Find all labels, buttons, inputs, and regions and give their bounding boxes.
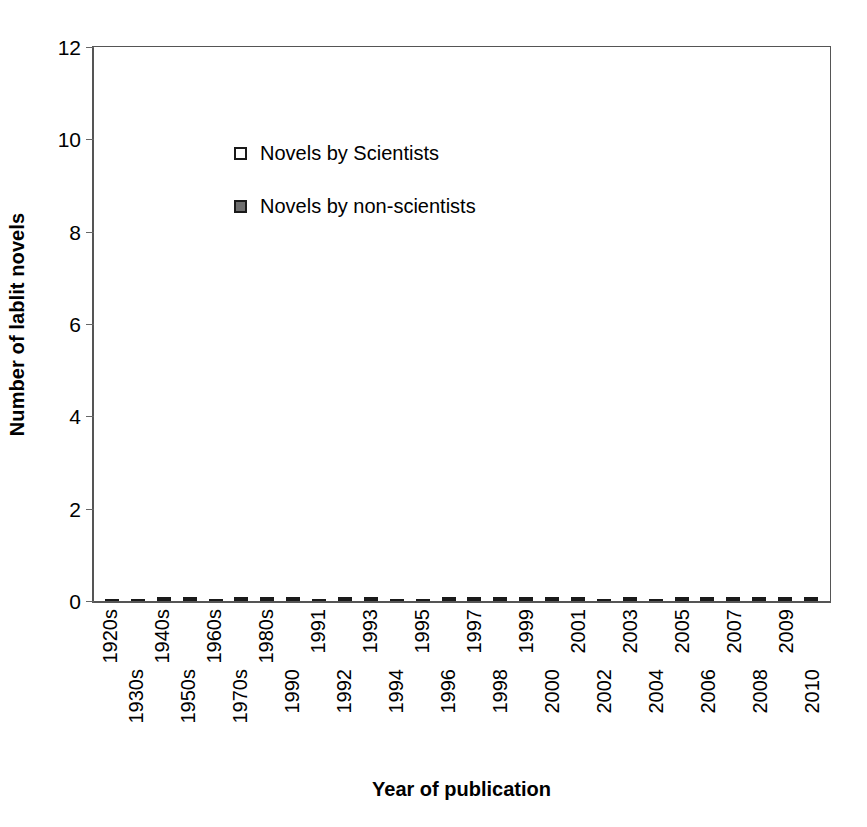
bar-slot xyxy=(332,47,358,601)
x-tick-slot: 1998 xyxy=(487,605,513,755)
x-tick-label: 2001 xyxy=(568,609,588,654)
stacked-bar[interactable] xyxy=(234,597,248,601)
x-tick-slot: 1990 xyxy=(279,605,305,755)
stacked-bar[interactable] xyxy=(390,599,404,601)
x-tick-slot: 2002 xyxy=(591,605,617,755)
x-tick-label: 1991 xyxy=(308,609,328,654)
x-tick-slot: 2001 xyxy=(565,605,591,755)
x-axis-title: Year of publication xyxy=(92,778,831,801)
legend-swatch-icon xyxy=(234,200,247,213)
x-tick-slot: 1993 xyxy=(357,605,383,755)
stacked-bar[interactable] xyxy=(675,597,689,601)
stacked-bar[interactable] xyxy=(519,597,533,601)
x-tick-label: 1980s xyxy=(256,609,276,664)
legend-item[interactable]: Novels by non-scientists xyxy=(234,195,476,218)
bar-slot xyxy=(746,47,772,601)
x-tick-slot: 2004 xyxy=(643,605,669,755)
x-tick-slot: 1940s xyxy=(149,605,175,755)
bar-segment-non-scientists xyxy=(726,599,740,601)
bar-segment-non-scientists xyxy=(778,599,792,601)
plot-area: 024681012 Novels by ScientistsNovels by … xyxy=(92,46,831,603)
x-tick-slot: 1980s xyxy=(253,605,279,755)
x-tick-slot: 1960s xyxy=(201,605,227,755)
stacked-bar[interactable] xyxy=(416,599,430,601)
x-tick-slot: 1995 xyxy=(409,605,435,755)
bar-slot xyxy=(565,47,591,601)
x-tick-label: 1940s xyxy=(152,609,172,664)
bar-series-container xyxy=(94,47,830,601)
x-tick-label: 1995 xyxy=(412,609,432,654)
stacked-bar[interactable] xyxy=(105,599,119,601)
y-tick-mark xyxy=(86,416,94,417)
x-axis-ticks: 1920s1930s1940s1950s1960s1970s1980s19901… xyxy=(92,605,831,755)
x-tick-label: 1998 xyxy=(490,669,510,714)
bar-slot xyxy=(410,47,436,601)
bar-slot xyxy=(591,47,617,601)
legend-item[interactable]: Novels by Scientists xyxy=(234,142,476,165)
x-tick-label: 1920s xyxy=(100,609,120,664)
stacked-bar[interactable] xyxy=(726,597,740,601)
bar-segment-non-scientists xyxy=(467,599,481,601)
x-tick-slot: 2005 xyxy=(669,605,695,755)
x-tick-label: 1990 xyxy=(282,669,302,714)
bar-slot xyxy=(358,47,384,601)
bar-slot xyxy=(228,47,254,601)
x-tick-label: 1996 xyxy=(438,669,458,714)
bar-segment-non-scientists xyxy=(234,599,248,601)
y-axis-title: Number of lablit novels xyxy=(0,46,34,603)
stacked-bar[interactable] xyxy=(364,597,378,601)
stacked-bar[interactable] xyxy=(467,597,481,601)
stacked-bar[interactable] xyxy=(700,597,714,601)
x-tick-slot: 2009 xyxy=(773,605,799,755)
y-tick-mark xyxy=(86,47,94,48)
x-tick-slot: 2007 xyxy=(721,605,747,755)
stacked-bar[interactable] xyxy=(338,597,352,601)
x-tick-label: 2008 xyxy=(750,669,770,714)
bar-chart-figure: Number of lablit novels 024681012 Novels… xyxy=(0,0,867,827)
y-tick-mark xyxy=(86,509,94,510)
stacked-bar[interactable] xyxy=(752,597,766,601)
stacked-bar[interactable] xyxy=(649,599,663,601)
x-tick-label: 2007 xyxy=(724,609,744,654)
bar-slot xyxy=(617,47,643,601)
stacked-bar[interactable] xyxy=(571,597,585,601)
bar-segment-non-scientists xyxy=(364,599,378,601)
bar-segment-scientists xyxy=(390,599,404,601)
bar-slot xyxy=(694,47,720,601)
x-tick-label: 2002 xyxy=(594,669,614,714)
stacked-bar[interactable] xyxy=(545,597,559,601)
x-tick-label: 1999 xyxy=(516,609,536,654)
stacked-bar[interactable] xyxy=(623,597,637,601)
bar-slot xyxy=(772,47,798,601)
stacked-bar[interactable] xyxy=(597,599,611,601)
x-tick-label: 2004 xyxy=(646,669,666,714)
x-tick-slot: 2006 xyxy=(695,605,721,755)
stacked-bar[interactable] xyxy=(260,597,274,601)
bar-slot xyxy=(720,47,746,601)
bar-slot xyxy=(254,47,280,601)
bar-segment-non-scientists xyxy=(545,599,559,601)
x-tick-label: 1993 xyxy=(360,609,380,654)
y-tick-mark xyxy=(86,324,94,325)
bar-slot xyxy=(487,47,513,601)
bar-segment-non-scientists xyxy=(157,599,171,601)
bar-segment-non-scientists xyxy=(700,599,714,601)
stacked-bar[interactable] xyxy=(442,597,456,601)
stacked-bar[interactable] xyxy=(183,597,197,601)
chart-legend: Novels by ScientistsNovels by non-scient… xyxy=(234,142,476,248)
stacked-bar[interactable] xyxy=(312,599,326,601)
bar-segment-non-scientists xyxy=(183,599,197,601)
stacked-bar[interactable] xyxy=(493,597,507,601)
bar-segment-non-scientists xyxy=(105,599,119,601)
x-tick-label: 2009 xyxy=(776,609,796,654)
stacked-bar[interactable] xyxy=(209,599,223,601)
stacked-bar[interactable] xyxy=(286,597,300,601)
x-tick-slot: 2003 xyxy=(617,605,643,755)
stacked-bar[interactable] xyxy=(778,597,792,601)
bar-segment-non-scientists xyxy=(519,599,533,601)
stacked-bar[interactable] xyxy=(131,599,145,601)
bar-slot xyxy=(99,47,125,601)
x-tick-label: 1930s xyxy=(126,669,146,724)
stacked-bar[interactable] xyxy=(804,597,818,601)
stacked-bar[interactable] xyxy=(157,597,171,601)
